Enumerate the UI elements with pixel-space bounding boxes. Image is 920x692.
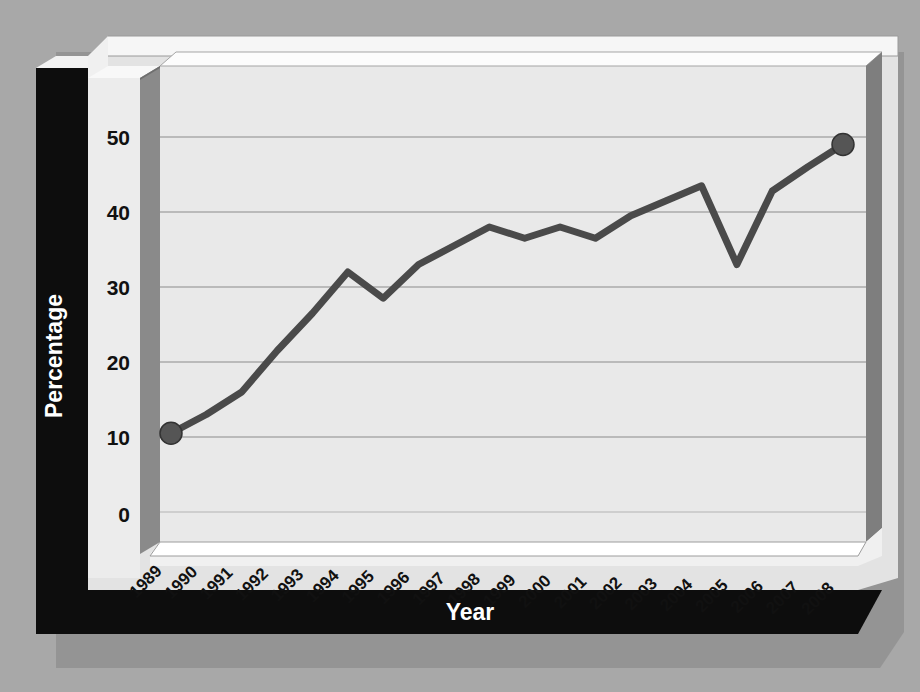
y-tick-label: 40 xyxy=(107,201,130,224)
plot-floor-face xyxy=(150,542,866,556)
y-tick-strip xyxy=(88,78,140,578)
y-tick-label: 30 xyxy=(107,276,130,299)
y-tick-label: 50 xyxy=(107,126,130,149)
x-axis-title: Year xyxy=(446,599,495,625)
data-point-marker-last xyxy=(832,134,854,156)
plot-left-wall xyxy=(140,66,160,554)
plot-right-wall xyxy=(866,52,882,542)
y-tick-label: 0 xyxy=(118,503,130,526)
y-tick-label: 20 xyxy=(107,351,130,374)
line-chart-svg: 50 40 30 20 10 0 19891990199119921993199… xyxy=(0,0,920,692)
chart-figure: 50 40 30 20 10 0 19891990199119921993199… xyxy=(0,0,920,692)
plot-top-bevel xyxy=(160,52,882,66)
y-axis-title: Percentage xyxy=(41,294,67,418)
data-point-marker-first xyxy=(160,422,182,444)
y-tick-label: 10 xyxy=(107,426,130,449)
